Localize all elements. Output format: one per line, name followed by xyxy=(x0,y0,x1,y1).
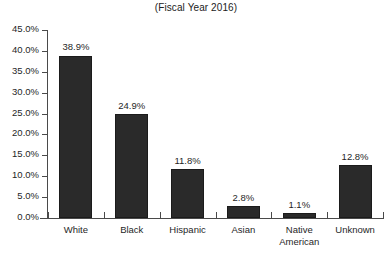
bar xyxy=(171,169,204,218)
x-axis-category-label: White xyxy=(47,224,105,236)
x-axis-category-label: Hispanic xyxy=(159,224,217,236)
bar xyxy=(339,165,372,218)
x-axis-category-label: Black xyxy=(103,224,161,236)
x-axis-category-label: Asian xyxy=(214,224,272,236)
bar-value-label: 24.9% xyxy=(104,100,160,111)
x-axis-category-label: Native American xyxy=(270,224,328,247)
bar-value-label: 1.1% xyxy=(271,199,327,210)
y-axis-tick-label: 20.0% xyxy=(12,127,39,138)
y-axis-tick-label: 45.0% xyxy=(12,23,39,34)
y-axis-tick-label: 30.0% xyxy=(12,86,39,97)
bar-chart: (Fiscal Year 2016) 45.0%40.0%35.0%30.0%2… xyxy=(0,0,392,256)
bar xyxy=(59,56,92,219)
x-axis-category-label: Unknown xyxy=(326,224,384,236)
y-axis-tick-label: 25.0% xyxy=(12,107,39,118)
chart-title: (Fiscal Year 2016) xyxy=(0,2,392,13)
bar-value-label: 38.9% xyxy=(48,41,104,52)
bar-value-label: 11.8% xyxy=(160,155,216,166)
y-axis-tick-label: 0.0% xyxy=(17,211,39,222)
x-axis-tick-mark xyxy=(383,212,384,219)
bar xyxy=(115,114,148,218)
y-axis-tick-label: 10.0% xyxy=(12,169,39,180)
bar xyxy=(283,213,316,218)
bar-value-label: 12.8% xyxy=(327,151,383,162)
y-axis-tick-label: 40.0% xyxy=(12,44,39,55)
plot-area xyxy=(48,30,383,218)
y-axis-tick-label: 5.0% xyxy=(17,190,39,201)
y-axis-tick-label: 35.0% xyxy=(12,65,39,76)
x-axis-line xyxy=(40,218,384,219)
y-axis-tick-label: 15.0% xyxy=(12,148,39,159)
bar-value-label: 2.8% xyxy=(215,192,271,203)
bar xyxy=(227,206,260,218)
